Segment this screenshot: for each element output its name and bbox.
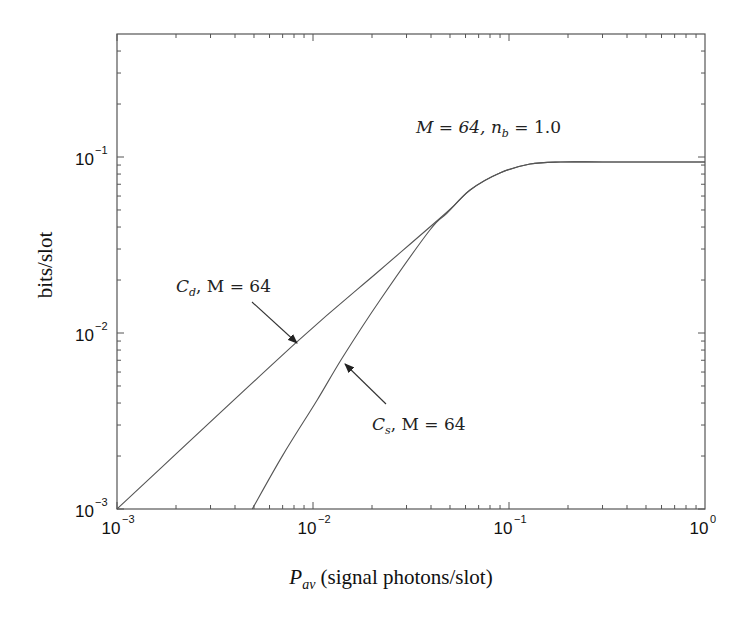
y-tick-exponent: −2 bbox=[95, 320, 108, 332]
capacity-chart: 10−310−210−110010−310−210−1 M = 64, nb =… bbox=[0, 0, 754, 624]
curve-cs bbox=[252, 162, 705, 509]
x-tick-label: 10 bbox=[494, 519, 513, 538]
plot-frame bbox=[117, 34, 705, 509]
plot-curves bbox=[117, 162, 705, 509]
curve-cd bbox=[117, 162, 705, 509]
arrow-cs bbox=[345, 364, 386, 404]
tick-labels: 10−310−210−110010−310−210−1 bbox=[75, 144, 716, 538]
annotation-cs: Cs, M = 64 bbox=[372, 414, 466, 437]
y-tick-exponent: −1 bbox=[95, 144, 108, 156]
x-label-subscript: av bbox=[302, 577, 316, 592]
x-tick-exponent: −3 bbox=[122, 513, 135, 525]
axis-ticks bbox=[117, 34, 705, 509]
y-axis-label: bits/slot bbox=[33, 232, 57, 299]
x-tick-exponent: −2 bbox=[318, 513, 331, 525]
x-tick-exponent: −1 bbox=[514, 513, 527, 525]
x-axis-label: Pav (signal photons/slot) bbox=[288, 565, 492, 592]
x-tick-label: 10 bbox=[102, 519, 121, 538]
x-label-text: (signal photons/slot) bbox=[315, 565, 492, 589]
x-tick-exponent: 0 bbox=[710, 513, 716, 525]
x-tick-label: 10 bbox=[690, 519, 709, 538]
annotation-param: M = 64, nb = 1.0 bbox=[415, 117, 561, 140]
annotations: M = 64, nb = 1.0Cd, M = 64Cs, M = 64 bbox=[176, 117, 561, 437]
annotation-cd: Cd, M = 64 bbox=[176, 276, 271, 299]
x-tick-label: 10 bbox=[298, 519, 317, 538]
y-tick-exponent: −3 bbox=[95, 496, 108, 508]
x-label-symbol: P bbox=[288, 565, 302, 589]
y-tick-label: 10 bbox=[75, 326, 94, 345]
arrow-cd bbox=[252, 302, 297, 343]
y-tick-label: 10 bbox=[75, 150, 94, 169]
y-tick-label: 10 bbox=[75, 502, 94, 521]
